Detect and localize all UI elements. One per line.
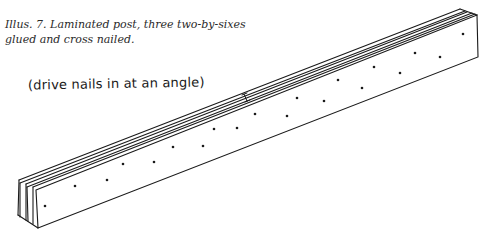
- board-top-line-3: [26, 12, 467, 184]
- laminated-post-illustration: [0, 0, 494, 230]
- nail-dots: [44, 33, 465, 208]
- end-cap-left: [18, 180, 19, 215]
- board-top-line-5: [33, 14, 475, 187]
- post-front-face: [36, 15, 478, 228]
- board-top-line-1: [19, 9, 460, 180]
- board-top-line-2: [20, 11, 465, 183]
